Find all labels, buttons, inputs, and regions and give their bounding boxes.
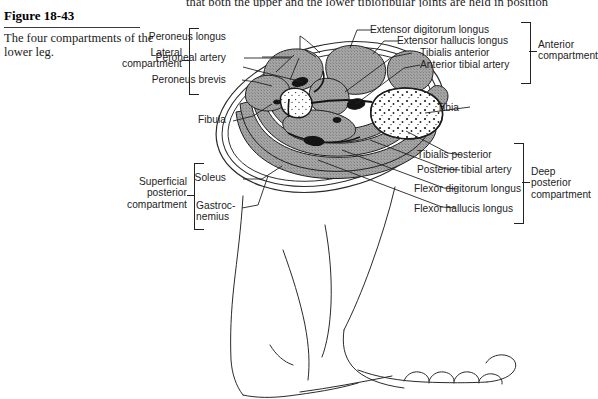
bracket-tick-deep-posterior: [522, 182, 530, 183]
label-extensor-digitorum-longus: Extensor digitorum longus: [370, 24, 489, 35]
compartment-label-anterior: Anterior compartment: [538, 39, 598, 62]
bracket-tick-anterior: [529, 51, 537, 52]
label-flexor-hallucis-longus: Flexor hallucis longus: [414, 203, 513, 214]
label-anterior-tibial-artery: Anterior tibial artery: [420, 59, 509, 70]
label-posterior-tibial-artery: Posterior tibial artery: [417, 164, 512, 175]
bracket-anterior-compartment: [521, 22, 531, 84]
compartment-label-deep-posterior: Deep posterior compartment: [531, 166, 593, 200]
bracket-deep-posterior-compartment: [514, 143, 524, 224]
bracket-superficial-posterior-compartment: [194, 163, 204, 230]
leg-and-foot-outline: [231, 187, 516, 397]
bracket-tick-lateral: [182, 60, 190, 61]
label-peroneus-brevis: Peroneus brevis: [116, 74, 226, 85]
bracket-lateral-compartment: [189, 28, 199, 95]
label-gastrocnemius: Gastroc- nemius: [196, 200, 258, 223]
label-flexor-digitorum-longus: Flexor digitorum longus: [414, 183, 521, 194]
label-peroneus-longus: Peroneus longus: [116, 31, 226, 42]
label-extensor-hallucis-longus: Extensor hallucis longus: [397, 35, 508, 46]
compartment-label-superficial-posterior: Superficial posterior compartment: [112, 176, 187, 210]
label-tibia: Tibia: [437, 102, 459, 113]
bracket-tick-superficial-posterior: [187, 195, 195, 196]
label-tibialis-posterior: Tibialis posterior: [417, 149, 492, 160]
compartment-label-lateral: Lateral compartment: [110, 47, 182, 70]
label-tibialis-anterior: Tibialis anterior: [420, 47, 490, 58]
label-fibula: Fibula: [150, 114, 226, 125]
